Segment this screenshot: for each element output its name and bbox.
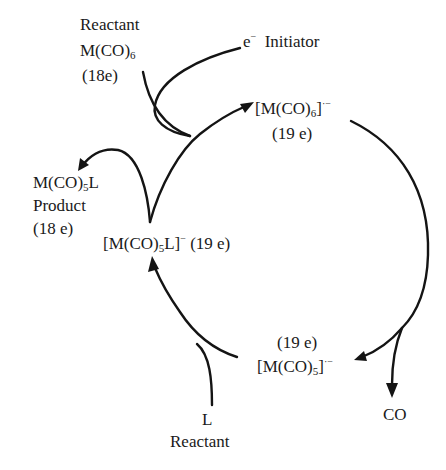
l-inflow-path <box>197 344 212 405</box>
charge-symbol: ·− <box>322 98 331 109</box>
reactant-mco6-role: Reactant <box>80 15 139 35</box>
initiator-label: e− Initiator <box>243 32 319 52</box>
formula-open: [M(CO) <box>257 357 313 376</box>
electron-charge: − <box>251 31 257 42</box>
arrowhead-to-mco5-anion <box>354 351 367 361</box>
arrowhead-to-co <box>386 383 398 398</box>
reactant-mco6-electrons: (18e) <box>82 66 118 86</box>
arrowhead-to-mco5l-anion <box>148 256 159 272</box>
reactant-inflow-path <box>143 72 190 136</box>
formula-subscript: 6 <box>130 49 136 61</box>
formula-close: L] <box>164 234 180 253</box>
product-mco5l-electrons: (18 e) <box>33 219 73 239</box>
charge-symbol: ·− <box>324 356 333 367</box>
initiator-text: Initiator <box>265 32 320 51</box>
mco5-anion-formula: [M(CO)5]·− <box>257 357 333 377</box>
charge-symbol: − <box>180 233 186 244</box>
product-mco5l-role: Product <box>33 196 86 216</box>
cycle-arc-to-mco6-anion <box>150 106 246 222</box>
formula-open: [M(CO) <box>103 234 159 253</box>
mco5l-anion-label: [M(CO)5L]− (19 e) <box>103 234 230 254</box>
product-mco5l-formula: M(CO)5L <box>33 173 99 193</box>
electron-count: (19 e) <box>190 234 230 253</box>
l-reactant-role: Reactant <box>170 432 229 452</box>
reactant-mco6-formula: M(CO)6 <box>80 41 136 61</box>
formula-tail: L <box>89 173 99 192</box>
cycle-arc-right <box>351 121 428 328</box>
formula-open: [M(CO) <box>255 99 311 118</box>
mco5-anion-electrons: (19 e) <box>277 333 317 353</box>
mco6-anion-formula: [M(CO)6]·− <box>255 99 331 119</box>
formula-main: M(CO) <box>80 41 130 60</box>
arrowhead-to-mco6-anion <box>240 102 254 113</box>
electron-symbol: e <box>243 32 251 51</box>
l-reactant-symbol: L <box>202 410 212 430</box>
formula-main: M(CO) <box>33 173 83 192</box>
co-label: CO <box>383 405 407 425</box>
mco6-anion-electrons: (19 e) <box>272 124 312 144</box>
